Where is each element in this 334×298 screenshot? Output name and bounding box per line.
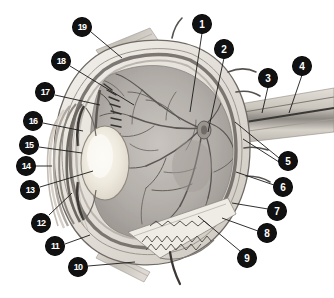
callout-19[interactable]: 19 bbox=[73, 18, 92, 37]
callout-2[interactable]: 2 bbox=[215, 40, 234, 59]
callout-9[interactable]: 9 bbox=[238, 249, 257, 268]
callout-1[interactable]: 1 bbox=[193, 15, 212, 34]
callout-4[interactable]: 4 bbox=[293, 57, 312, 76]
macula bbox=[172, 140, 212, 192]
callout-5[interactable]: 5 bbox=[279, 152, 298, 171]
callout-13[interactable]: 13 bbox=[21, 181, 40, 200]
lens bbox=[81, 126, 129, 200]
callout-3[interactable]: 3 bbox=[259, 69, 278, 88]
callout-16[interactable]: 16 bbox=[24, 112, 43, 131]
callout-14[interactable]: 14 bbox=[17, 157, 36, 176]
callout-10[interactable]: 10 bbox=[69, 258, 88, 277]
callout-17[interactable]: 17 bbox=[36, 83, 55, 102]
callout-18[interactable]: 18 bbox=[52, 52, 71, 71]
callout-7[interactable]: 7 bbox=[268, 202, 287, 221]
callout-15[interactable]: 15 bbox=[20, 136, 39, 155]
callout-11[interactable]: 11 bbox=[46, 237, 65, 256]
callout-12[interactable]: 12 bbox=[32, 214, 51, 233]
optic-disc bbox=[197, 121, 211, 139]
callout-8[interactable]: 8 bbox=[258, 224, 277, 243]
callout-6[interactable]: 6 bbox=[274, 178, 293, 197]
eye-anatomy-figure: 12345678910111213141516171819 bbox=[0, 0, 334, 298]
